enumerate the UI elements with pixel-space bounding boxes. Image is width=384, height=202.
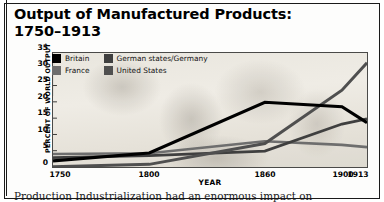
line-series-group	[53, 63, 367, 167]
legend-swatch-icon	[52, 54, 61, 63]
y-tick-label: 15	[37, 108, 48, 117]
title-line-2: 1750–1913	[14, 23, 354, 40]
title-line-1: Output of Manufactured Products:	[14, 6, 354, 23]
page-title: Output of Manufactured Products: 1750–19…	[14, 6, 354, 39]
legend-label: German states/Germany	[117, 54, 208, 63]
y-tick-label: 35	[37, 42, 48, 51]
y-tick-label: 0	[43, 158, 48, 167]
figure-caption: Production Industrialization had an enor…	[14, 190, 370, 202]
y-tick-label: 5	[43, 141, 48, 150]
legend-label: France	[65, 66, 90, 75]
x-axis-title: YEAR	[52, 178, 368, 187]
y-tick-label: 25	[37, 75, 48, 84]
legend-item-britain: Britain	[52, 54, 90, 63]
legend-swatch-icon	[104, 54, 113, 63]
legend-label: Britain	[65, 54, 89, 63]
legend-label: United States	[117, 66, 167, 75]
y-tick-label: 30	[37, 58, 48, 67]
y-tick-marks	[53, 69, 57, 167]
legend-item-germany: German states/Germany	[104, 54, 208, 63]
legend-item-france: France	[52, 66, 90, 75]
figure-root: Output of Manufactured Products: 1750–19…	[0, 0, 384, 202]
line-series-united-states	[53, 63, 367, 167]
y-tick-label: 10	[37, 124, 48, 133]
chart-legend: Britain German states/Germany France Uni…	[52, 54, 208, 75]
y-tick-label: 20	[37, 91, 48, 100]
legend-swatch-icon	[52, 66, 61, 75]
legend-item-united-states: United States	[104, 66, 208, 75]
legend-swatch-icon	[104, 66, 113, 75]
line-series-germany	[53, 119, 367, 158]
y-axis-tick-labels: 0 5 10 15 20 25 30 35	[28, 46, 48, 168]
